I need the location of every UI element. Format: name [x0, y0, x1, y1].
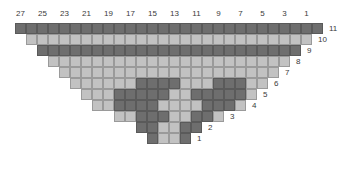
grid-cell: [92, 34, 103, 45]
grid-cell: [136, 67, 147, 78]
row-label: 8: [296, 57, 312, 67]
grid-cell: [180, 111, 191, 122]
grid-cell: [81, 56, 92, 67]
column-label: 27: [10, 9, 32, 19]
grid-cell: [147, 111, 158, 122]
grid-cell: [268, 23, 279, 34]
row-label: 1: [197, 134, 213, 144]
grid-cell: [92, 67, 103, 78]
grid-cell: [15, 23, 26, 34]
grid-cell: [103, 34, 114, 45]
grid-cell: [158, 56, 169, 67]
grid-cell: [125, 67, 136, 78]
grid-cell: [268, 67, 279, 78]
grid-cell: [114, 67, 125, 78]
column-label: 25: [32, 9, 54, 19]
grid-cell: [180, 78, 191, 89]
grid-cell: [169, 89, 180, 100]
grid-cell: [279, 34, 290, 45]
grid-cell: [191, 67, 202, 78]
grid-cell: [169, 100, 180, 111]
column-label: 19: [98, 9, 120, 19]
column-label: 21: [76, 9, 98, 19]
grid-cell: [246, 78, 257, 89]
grid-cell: [70, 23, 81, 34]
grid-cell: [114, 45, 125, 56]
grid-cell: [103, 56, 114, 67]
grid-cell: [136, 89, 147, 100]
grid-cell: [235, 100, 246, 111]
grid-cell: [114, 23, 125, 34]
grid-cell: [70, 45, 81, 56]
grid-cell: [158, 67, 169, 78]
grid-cell: [136, 100, 147, 111]
row-label: 5: [263, 90, 279, 100]
grid-cell: [301, 34, 312, 45]
grid-cell: [246, 89, 257, 100]
grid-cell: [147, 78, 158, 89]
grid-cell: [125, 100, 136, 111]
row-label: 3: [230, 112, 246, 122]
grid-cell: [257, 67, 268, 78]
grid-cell: [169, 111, 180, 122]
grid-cell: [136, 23, 147, 34]
grid-cell: [246, 34, 257, 45]
grid-cell: [202, 45, 213, 56]
grid-cell: [59, 23, 70, 34]
grid-cell: [81, 67, 92, 78]
grid-cell: [213, 67, 224, 78]
grid-cell: [191, 100, 202, 111]
grid-cell: [191, 45, 202, 56]
grid-cell: [268, 45, 279, 56]
grid-cell: [158, 133, 169, 144]
grid-cell: [180, 34, 191, 45]
column-label: 5: [252, 9, 274, 19]
grid-cell: [257, 23, 268, 34]
column-label: 17: [120, 9, 142, 19]
grid-cell: [235, 67, 246, 78]
grid-cell: [136, 56, 147, 67]
grid-cell: [191, 111, 202, 122]
grid-cell: [213, 89, 224, 100]
grid-cell: [125, 23, 136, 34]
grid-cell: [235, 56, 246, 67]
grid-cell: [257, 78, 268, 89]
grid-cell: [103, 100, 114, 111]
grid-cell: [224, 100, 235, 111]
row-label: 11: [329, 24, 345, 34]
grid-cell: [147, 67, 158, 78]
grid-cell: [48, 34, 59, 45]
grid-cell: [26, 23, 37, 34]
grid-cell: [158, 78, 169, 89]
grid-cell: [158, 45, 169, 56]
grid-cell: [213, 111, 224, 122]
grid-cell: [114, 111, 125, 122]
grid-cell: [246, 67, 257, 78]
grid-cell: [169, 122, 180, 133]
row-label: 4: [252, 101, 268, 111]
grid-cell: [213, 100, 224, 111]
grid-cell: [202, 111, 213, 122]
grid-cell: [246, 56, 257, 67]
grid-cell: [59, 67, 70, 78]
grid-cell: [191, 56, 202, 67]
grid-cell: [169, 67, 180, 78]
grid-cell: [37, 34, 48, 45]
grid-cell: [125, 56, 136, 67]
grid-cell: [213, 34, 224, 45]
grid-cell: [136, 111, 147, 122]
grid-cell: [169, 133, 180, 144]
grid-cell: [125, 78, 136, 89]
grid-cell: [235, 78, 246, 89]
grid-cell: [92, 78, 103, 89]
grid-cell: [235, 34, 246, 45]
grid-cell: [202, 78, 213, 89]
grid-cell: [158, 34, 169, 45]
grid-cell: [158, 122, 169, 133]
grid-cell: [158, 100, 169, 111]
grid-cell: [180, 89, 191, 100]
grid-cell: [136, 45, 147, 56]
grid-cell: [147, 133, 158, 144]
grid-cell: [125, 89, 136, 100]
grid-cell: [180, 100, 191, 111]
